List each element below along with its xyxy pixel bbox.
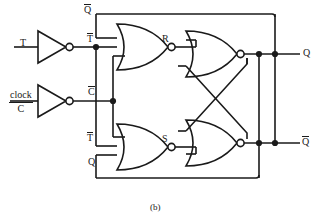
- qbar-feedback-corner: [272, 14, 275, 17]
- qbar-feedback-label-text: Q: [84, 4, 91, 15]
- q-output-label: Q: [303, 48, 310, 58]
- clock-input-label-bottom: C: [9, 103, 33, 115]
- junction-q-node-a: [256, 51, 262, 57]
- figure-root: T clock C Q T C T Q R S Q Q (b): [0, 0, 319, 224]
- cbar-label-text: C: [88, 86, 95, 97]
- nor-gate-q-body: [186, 31, 237, 77]
- figure-caption: (b): [150, 202, 161, 212]
- tbar-bottom-label: T: [87, 132, 93, 143]
- t-inverter: [14, 31, 96, 63]
- t-inverter-triangle: [38, 31, 66, 63]
- qbar-output-label: Q: [302, 136, 309, 147]
- nor-gate-r-bubble: [168, 43, 175, 50]
- nor-gate-qbar: [186, 120, 300, 166]
- nor-gate-qbar-bubble: [237, 139, 244, 146]
- cross-couple-q-diagonal: [186, 58, 247, 131]
- q-feedback-label: Q: [88, 157, 95, 167]
- cbar-label: C: [88, 86, 95, 97]
- junction-q-node-b: [272, 51, 278, 57]
- tbar-top-label: T: [87, 33, 93, 44]
- r-label: R: [162, 34, 169, 44]
- cross-couple-q-to-qbar: [186, 58, 247, 131]
- circuit-diagram-svg: [0, 0, 319, 224]
- nor-gate-s-bubble: [168, 143, 175, 150]
- clock-input-label: clock C: [9, 90, 33, 114]
- clock-input-stacked: clock C: [9, 90, 33, 114]
- junction-qbar-node-a: [256, 140, 262, 146]
- clock-inverter-triangle: [38, 85, 66, 117]
- nor-gate-r-body: [117, 24, 168, 70]
- cross-couple-qbar-diagonal: [186, 66, 247, 139]
- junction-cbar-bus: [110, 98, 116, 104]
- nor-gate-q: [186, 31, 300, 77]
- t-inverter-bubble: [66, 43, 73, 50]
- tbar-top-label-text: T: [87, 33, 93, 44]
- qbar-output-label-text: Q: [302, 136, 309, 147]
- q-feedback-path: [96, 54, 259, 178]
- t-input-label: T: [20, 38, 26, 48]
- q-feedback-corner: [256, 175, 259, 178]
- nor-gate-qbar-body: [186, 120, 237, 166]
- nor-gate-q-bubble: [237, 50, 244, 57]
- cross-couple-qbar-to-q: [186, 66, 247, 139]
- nor-gate-r: [117, 24, 196, 70]
- junction-tbar-bus: [93, 44, 99, 50]
- qbar-feedback-label: Q: [84, 4, 91, 15]
- nor-gate-s-body: [117, 124, 168, 170]
- s-label: S: [162, 134, 168, 144]
- clock-inverter-bubble: [66, 97, 73, 104]
- junction-qbar-node-b: [272, 140, 278, 146]
- tbar-bottom-label-text: T: [87, 132, 93, 143]
- clock-input-label-top: clock: [9, 90, 33, 103]
